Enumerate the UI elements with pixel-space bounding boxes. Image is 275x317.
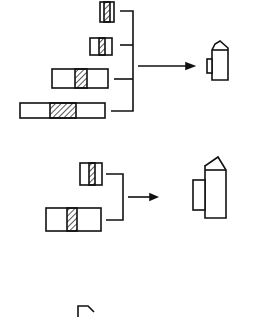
assembly-diagram (0, 0, 275, 317)
input-block-2 (90, 38, 112, 55)
bracket-2 (106, 174, 123, 220)
assembled-part-large (193, 157, 226, 218)
assembled-part-small (207, 41, 228, 80)
input-block-4 (20, 103, 105, 118)
input-block-5 (80, 163, 102, 185)
partial-part-bottom (78, 306, 94, 317)
arrow-1 (138, 63, 194, 69)
input-block-6 (46, 208, 101, 231)
input-block-1 (100, 2, 114, 22)
arrow-2 (128, 194, 157, 200)
input-block-3 (52, 69, 108, 88)
bracket-1 (111, 11, 133, 111)
